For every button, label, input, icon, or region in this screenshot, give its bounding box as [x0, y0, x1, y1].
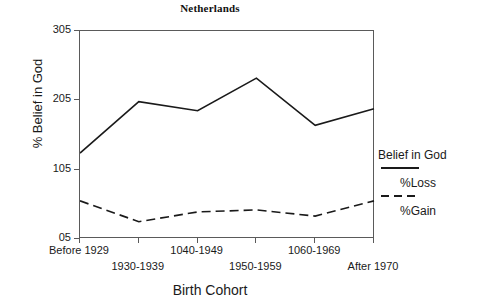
series-line-loss: [80, 201, 374, 222]
legend-label-gain: %Gain: [378, 204, 491, 218]
y-tick-label: 305: [27, 24, 71, 35]
x-tick-label: 1950-1959: [210, 260, 300, 272]
chart-title: Netherlands: [0, 2, 420, 14]
series-line-belief-in-god: [80, 78, 374, 153]
y-tick-label: 05: [27, 232, 71, 243]
chart-figure: Netherlands % Belief in God 30520510505 …: [0, 0, 491, 303]
y-tick-label: 205: [27, 93, 71, 104]
x-axis-title: Birth Cohort: [0, 282, 420, 298]
x-tick-label: 1040-1949: [152, 244, 242, 256]
x-tick-label: 1060-1969: [269, 244, 359, 256]
legend-swatch-dashed: [380, 192, 491, 202]
x-tick-label: Before 1929: [34, 244, 124, 256]
x-tick-label: After 1970: [328, 260, 418, 272]
legend-label-loss: %Loss: [378, 176, 491, 190]
y-tick-label: 105: [27, 163, 71, 174]
plot-lines: [80, 31, 375, 239]
plot-area: [79, 30, 374, 238]
x-tick-label: 1930-1939: [93, 260, 183, 272]
chart-legend: Belief in God %Loss %Gain: [378, 148, 491, 218]
legend-swatch-solid: [380, 164, 491, 174]
legend-label-belief-in-god: Belief in God: [378, 148, 491, 162]
